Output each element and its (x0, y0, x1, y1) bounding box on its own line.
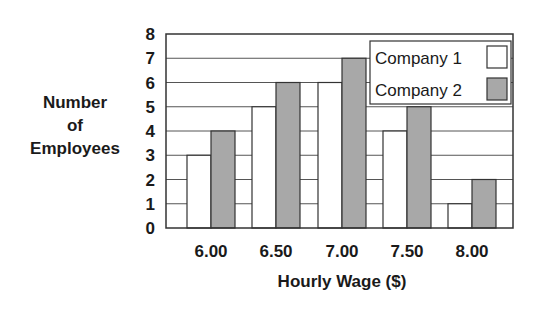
y-tick-label: 6 (146, 74, 155, 93)
x-tick-label: 7.00 (325, 242, 358, 261)
x-axis-label: Hourly Wage ($) (278, 272, 407, 291)
legend-swatch (487, 78, 507, 100)
y-tick-label: 5 (146, 98, 155, 117)
bar-company-1-7.00 (318, 83, 342, 229)
bar-company-2-6.50 (276, 83, 300, 229)
x-tick-label: 7.50 (390, 242, 423, 261)
legend-label: Company 1 (375, 49, 462, 68)
bar-company-2-7.50 (407, 107, 431, 228)
y-axis-ticks: 012345678 (146, 25, 156, 238)
bar-company-1-7.50 (383, 131, 407, 228)
y-axis-label-line: of (67, 116, 83, 135)
y-tick-label: 3 (146, 146, 155, 165)
y-axis-label: NumberofEmployees (30, 93, 120, 158)
x-tick-label: 6.50 (259, 242, 292, 261)
bar-company-2-6.00 (211, 131, 235, 228)
y-tick-label: 4 (146, 122, 156, 141)
legend-label: Company 2 (375, 81, 462, 100)
x-tick-label: 8.00 (455, 242, 488, 261)
bar-company-2-7.00 (342, 58, 366, 228)
bar-company-1-8.00 (448, 204, 472, 228)
y-axis-label-line: Number (43, 93, 108, 112)
x-axis-ticks: 6.006.507.007.508.00 (194, 242, 488, 261)
y-tick-label: 1 (146, 195, 155, 214)
y-tick-label: 7 (146, 49, 155, 68)
bar-company-1-6.00 (187, 155, 211, 228)
x-tick-label: 6.00 (194, 242, 227, 261)
y-tick-label: 0 (146, 219, 155, 238)
bar-company-2-8.00 (472, 180, 496, 229)
y-tick-label: 8 (146, 25, 155, 44)
y-tick-label: 2 (146, 171, 155, 190)
legend-swatch (487, 46, 507, 68)
bar-company-1-6.50 (252, 107, 276, 228)
legend: Company 1Company 2 (370, 41, 511, 104)
y-axis-label-line: Employees (30, 139, 120, 158)
bar-chart: 012345678 6.006.507.007.508.00 NumberofE… (0, 0, 538, 317)
